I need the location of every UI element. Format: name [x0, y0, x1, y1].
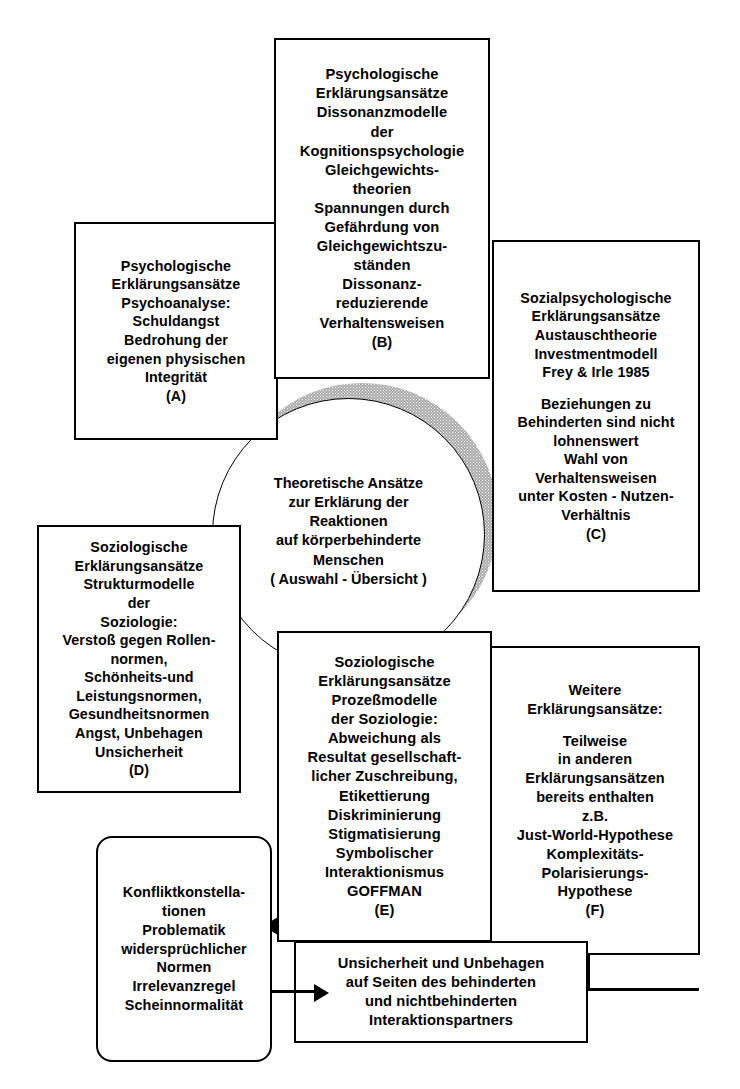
box-c-exchange-theory[interactable]: SozialpsychologischeErklärungsansätzeAus…: [492, 240, 700, 592]
box-d-line-2: Strukturmodelle: [83, 575, 194, 594]
arrowhead-into-result: [314, 984, 329, 1002]
box-f-line-1: Erklärungsansätze:: [527, 700, 663, 719]
box-b-line-0: Psychologische: [325, 65, 438, 84]
box-result-line-1: auf Seiten des behinderten: [346, 973, 536, 992]
box-a-line-4: Bedrohung der: [124, 331, 228, 350]
box-e-line-0: Soziologische: [334, 653, 434, 672]
box-d-line-6: normen,: [110, 650, 167, 669]
box-c-line-4: Frey & Irle 1985: [542, 363, 649, 382]
box-a-line-6: Integrität: [145, 368, 207, 387]
box-conflict-line-3: widersprüchlicher: [121, 940, 247, 959]
box-b-line-12: reduzierende: [336, 294, 429, 313]
box-f-line-7: z.B.: [582, 807, 608, 826]
box-conflict-line-1: tionen: [162, 902, 206, 921]
box-f-line-6: bereits enthalten: [536, 788, 654, 807]
box-f-line-10: Polarisierungs-: [541, 864, 648, 883]
box-b-line-10: ständen: [353, 256, 410, 275]
box-result-line-2: und nichtbehinderten: [365, 992, 517, 1011]
box-c-line-12: Verhältnis: [561, 506, 630, 525]
box-c-line-6: Beziehungen zu: [541, 395, 651, 414]
box-d-line-11: Unsicherheit: [95, 743, 183, 762]
box-e-line-8: Diskriminierung: [328, 806, 441, 825]
box-e-line-11: Interaktionismus: [325, 863, 444, 882]
box-f-line-5: Erklärungsansätzen: [525, 769, 665, 788]
box-e-line-5: Resultat gesellschaft-: [307, 748, 461, 767]
box-e-line-2: Prozeßmodelle: [332, 691, 438, 710]
box-b-line-9: Gleichgewichtszu-: [317, 237, 448, 256]
box-d-structural-models[interactable]: SoziologischeErklärungsansätzeStrukturmo…: [37, 525, 241, 793]
box-f-line-8: Just-World-Hypothese: [517, 826, 673, 845]
box-e-line-12: GOFFMAN: [347, 882, 422, 901]
box-a-line-5: eigenen physischen: [107, 350, 245, 369]
box-c-line-9: Wahl von: [564, 450, 628, 469]
box-b-line-5: Gleichgewichts-: [325, 161, 439, 180]
box-b-line-6: theorien: [353, 180, 412, 199]
box-d-line-0: Soziologische: [90, 538, 187, 557]
box-b-line-14: (B): [372, 333, 393, 352]
box-f-line-0: Weitere: [569, 681, 622, 700]
connector-f-horizontal: [587, 988, 699, 991]
box-e-line-13: (E): [375, 901, 395, 920]
box-result-uncertainty[interactable]: Unsicherheit und Unbehagenauf Seiten des…: [294, 941, 588, 1043]
box-d-line-7: Schönheits-und: [84, 668, 193, 687]
box-b-line-4: Kognitionspsychologie: [300, 142, 464, 161]
box-f-line-4: in anderen: [558, 750, 632, 769]
box-e-line-4: Abweichung als: [328, 729, 441, 748]
box-b-line-7: Spannungen durch: [314, 199, 449, 218]
box-e-line-10: Symbolischer: [336, 844, 434, 863]
box-c-line-11: unter Kosten - Nutzen-: [518, 487, 674, 506]
box-e-process-models[interactable]: SoziologischeErklärungsansätzeProzeßmode…: [277, 631, 492, 942]
box-d-line-3: der: [128, 594, 151, 613]
box-e-line-1: Erklärungsansätze: [318, 672, 450, 691]
box-f-line-3: Teilweise: [563, 732, 627, 751]
box-e-line-9: Stigmatisierung: [328, 825, 441, 844]
box-f-line-12: (F): [586, 901, 605, 920]
box-f-line-11: Hypothese: [557, 882, 632, 901]
box-d-line-1: Erklärungsansätze: [75, 557, 204, 576]
box-a-line-7: (A): [166, 387, 186, 406]
box-d-line-5: Verstoß gegen Rollen-: [62, 631, 215, 650]
box-result-line-0: Unsicherheit und Unbehagen: [338, 954, 545, 973]
box-d-line-8: Leistungsnormen,: [76, 687, 202, 706]
box-c-line-13: (C): [586, 525, 606, 544]
box-c-line-0: Sozialpsychologische: [520, 289, 671, 308]
box-e-line-6: licher Zuschreibung,: [311, 767, 457, 786]
box-a-line-0: Psychologische: [121, 257, 231, 276]
box-c-line-10: Verhaltensweisen: [535, 469, 657, 488]
diagram-canvas: PsychologischeErklärungsansätzePsychoana…: [0, 0, 740, 1089]
box-b-line-2: Dissonanzmodelle: [317, 103, 448, 122]
box-a-line-1: Erklärungsansätze: [112, 275, 241, 294]
box-d-line-4: Soziologie:: [100, 613, 177, 632]
box-c-line-3: Investmentmodell: [534, 345, 657, 364]
box-b-line-8: Gefährdung von: [325, 218, 440, 237]
box-d-line-9: Gesundheitsnormen: [69, 705, 210, 724]
box-e-line-7: Etikettierung: [339, 787, 430, 806]
box-e-line-3: der Soziologie:: [331, 710, 438, 729]
box-conflict-line-4: Normen: [157, 958, 212, 977]
box-b-dissonance-models[interactable]: PsychologischeErklärungsansätzeDissonanz…: [274, 38, 490, 379]
connector-conflict-to-result: [272, 990, 316, 993]
box-conflict-constellations[interactable]: Konfliktkonstella-tionenProblematikwider…: [96, 836, 272, 1062]
box-conflict-line-2: Problematik: [142, 921, 225, 940]
box-c-line-1: Erklärungsansätze: [532, 307, 661, 326]
box-conflict-line-5: Irrelevanzregel: [132, 977, 235, 996]
box-conflict-line-0: Konfliktkonstella-: [123, 883, 246, 902]
box-a-line-2: Psychoanalyse:: [121, 294, 230, 313]
box-conflict-line-6: Scheinnormalität: [125, 996, 243, 1015]
box-b-line-11: Dissonanz-: [342, 275, 421, 294]
box-a-psychoanalysis[interactable]: PsychologischeErklärungsansätzePsychoana…: [74, 222, 278, 440]
box-b-line-3: der: [370, 123, 393, 142]
box-b-line-1: Erklärungsansätze: [316, 84, 448, 103]
box-d-line-10: Angst, Unbehagen: [75, 724, 203, 743]
box-d-line-12: (D): [129, 761, 149, 780]
box-a-line-3: Schuldangst: [133, 312, 220, 331]
box-c-line-2: Austauschtheorie: [535, 326, 657, 345]
box-b-line-13: Verhaltensweisen: [320, 314, 445, 333]
box-c-line-8: lohnenswert: [553, 432, 638, 451]
box-c-line-7: Behinderten sind nicht: [517, 413, 674, 432]
box-f-line-9: Komplexitäts-: [546, 845, 643, 864]
box-result-line-3: Interaktionspartners: [369, 1011, 513, 1030]
box-f-further-approaches[interactable]: WeitereErklärungsansätze:Teilweisein and…: [490, 646, 700, 955]
